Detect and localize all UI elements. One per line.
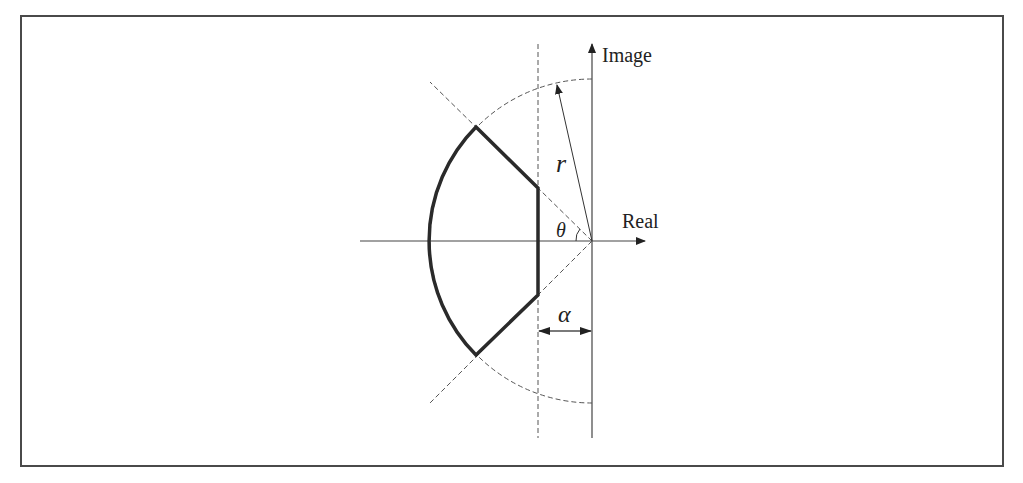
theta-angle-arc — [576, 229, 580, 241]
real-axis-label: Real — [622, 210, 659, 232]
pole-region-diagram: Image Real r θ α — [0, 0, 1023, 483]
theta-symbol: θ — [556, 219, 566, 241]
alpha-symbol: α — [558, 301, 571, 327]
radius-symbol: r — [556, 149, 567, 178]
image-axis-label: Image — [602, 44, 652, 67]
